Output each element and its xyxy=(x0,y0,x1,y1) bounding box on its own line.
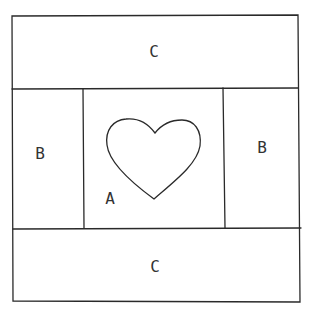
bottom-panel-label: C xyxy=(150,257,160,276)
left-panel-divider xyxy=(83,89,84,228)
center-panel-label: A xyxy=(105,189,115,208)
right-panel-divider xyxy=(223,88,225,228)
top-panel-divider xyxy=(12,88,298,89)
top-panel-label: C xyxy=(149,42,159,61)
bottom-panel-divider xyxy=(13,228,301,229)
left-panel-label: B xyxy=(35,144,45,163)
right-panel-label: B xyxy=(257,138,267,157)
heart-icon xyxy=(107,119,201,199)
quilt-block-diagram: C B A B C xyxy=(0,0,320,310)
